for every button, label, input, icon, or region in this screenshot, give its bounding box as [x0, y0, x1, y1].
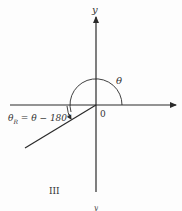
terminal-ray — [25, 105, 96, 148]
theta-label: θ — [116, 75, 122, 86]
diagram-svg: y θ 0 III y θR = θ − 180° — [0, 0, 182, 211]
origin-label: 0 — [100, 109, 106, 119]
y-axis-label-top: y — [91, 4, 98, 15]
quadrant-label: III — [49, 186, 60, 196]
reference-angle-diagram: y θ 0 III y θR = θ − 180° — [0, 0, 182, 211]
y-axis-label-bottom: y — [93, 204, 99, 211]
reference-angle-expression: = θ − 180° — [18, 113, 72, 123]
reference-angle-formula: θR = θ − 180° — [8, 113, 72, 125]
